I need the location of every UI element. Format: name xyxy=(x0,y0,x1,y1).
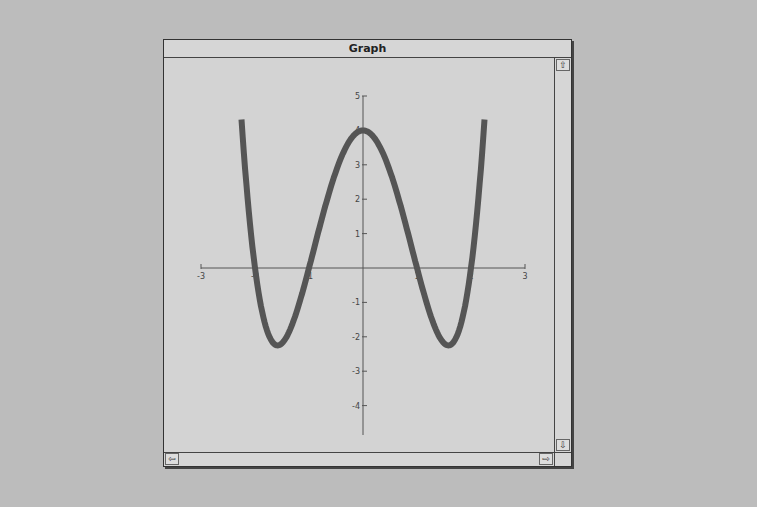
scroll-down-icon[interactable]: ⇩ xyxy=(556,439,570,451)
y-tick-label: 1 xyxy=(355,230,360,239)
resize-grip[interactable] xyxy=(554,452,571,466)
graph-window: Graph -3-2-112354321-1-2-3-4-5 ⇧ ⇩ ⇦ ⇨ xyxy=(163,39,572,467)
vertical-scrollbar[interactable]: ⇧ ⇩ xyxy=(554,58,571,452)
scroll-up-icon[interactable]: ⇧ xyxy=(556,59,570,71)
horizontal-scrollbar[interactable]: ⇦ ⇨ xyxy=(164,452,554,466)
graph-plot: -3-2-112354321-1-2-3-4-5 xyxy=(164,40,554,435)
y-tick-label: -4 xyxy=(352,402,360,411)
scroll-right-icon[interactable]: ⇨ xyxy=(539,453,553,465)
y-tick-label: 5 xyxy=(355,92,360,101)
y-tick-label: -2 xyxy=(352,333,360,342)
y-tick-label: 2 xyxy=(355,195,360,204)
x-tick-label: 3 xyxy=(522,272,527,281)
y-tick-label: -1 xyxy=(352,298,360,307)
x-tick-label: -3 xyxy=(197,272,205,281)
y-tick-label: -3 xyxy=(352,367,360,376)
y-tick-label: 3 xyxy=(355,161,360,170)
scroll-left-icon[interactable]: ⇦ xyxy=(165,453,179,465)
